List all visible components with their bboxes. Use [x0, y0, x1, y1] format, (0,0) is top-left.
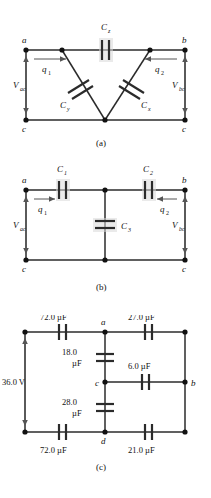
vbc-subscript: bc [179, 86, 185, 92]
cap-c1-label: C [57, 164, 64, 174]
node-label-c-right: c [182, 124, 186, 134]
source-arrow-head-down [22, 420, 28, 426]
cap-c2-subscript: 2 [150, 170, 153, 176]
node-c-topright-dot [182, 329, 187, 334]
node-label-b-c-left: c [22, 264, 26, 274]
caption-b: (b) [96, 282, 107, 292]
node-c-dot-c [102, 379, 107, 384]
node-d-dot-c [102, 429, 107, 434]
cap-value-top-right: 27.0 µF [128, 315, 155, 322]
vbc-label: V [172, 80, 179, 90]
node-label-b-c-right: c [182, 264, 186, 274]
node-a-dot-c [102, 329, 107, 334]
cap-value-18-line2: µF [72, 358, 82, 368]
vacb-arrow-head-up [23, 196, 29, 202]
q2b-label: q [160, 204, 165, 214]
cap-value-18-line1: 18.0 [62, 347, 77, 357]
cap-value-top-left: 72.0 µF [40, 315, 67, 322]
cap-value-28-line1: 28.0 [62, 397, 77, 407]
node-label-b: b [182, 35, 187, 45]
caption-c: (c) [96, 462, 106, 472]
cap-c3-label: C [121, 221, 128, 231]
caption-a: (a) [96, 138, 106, 148]
cap-cx-subscript: x [147, 106, 151, 112]
vbcb-arrow-head-up [182, 196, 188, 202]
node-label-c-left: c [22, 124, 26, 134]
node-b-dot [182, 47, 187, 52]
node-b-b-dot [182, 187, 187, 192]
node-c-left-dot [23, 117, 28, 122]
cap-cy-label: C [60, 100, 67, 110]
node-c-botleft-dot [22, 429, 27, 434]
node-b-a-dot [23, 187, 28, 192]
vac-arrow-head-up [23, 56, 29, 62]
cap-c1-subscript: 1 [64, 170, 67, 176]
vbcb-label: V [172, 220, 179, 230]
node-b-dot-c [182, 379, 187, 384]
node-a-dot [23, 47, 28, 52]
vbc-arrow-head-down [182, 108, 188, 114]
panel-c: 72.0 µF 27.0 µF 18.0 µF 28.0 µF 6.0 µF 7… [0, 315, 211, 498]
node-c-topleft-dot [22, 329, 27, 334]
vbcb-arrow-head-down [182, 248, 188, 254]
vacb-subscript: ac [20, 226, 26, 232]
q2b-arrow-head [157, 196, 163, 202]
cap-value-bottom-right: 21.0 µF [128, 445, 155, 455]
vacb-arrow-head-down [23, 248, 29, 254]
cap-cz-subscript: z [107, 28, 111, 34]
q1-label: q [42, 64, 47, 74]
node-c-right-dot [182, 117, 187, 122]
node-b-c-right-dot [182, 257, 187, 262]
q2-subscript: 2 [161, 70, 164, 76]
node-label-a: a [22, 35, 27, 45]
node-label-c-d: d [101, 436, 106, 446]
q1b-label: q [38, 204, 43, 214]
cap-cx-label: C [141, 100, 148, 110]
vac-arrow-head-down [23, 108, 29, 114]
node-a-bottom-junction [102, 117, 107, 122]
cap-value-6uf: 6.0 µF [128, 361, 151, 371]
q1b-subscript: 1 [44, 210, 47, 216]
source-arrow-head-up [22, 338, 28, 344]
cap-value-28-line2: µF [72, 408, 82, 418]
vacb-label: V [13, 220, 20, 230]
q1-subscript: 1 [48, 70, 51, 76]
circuit-figure: C z C y C x a b c c [0, 0, 211, 498]
cap-c3-subscript: 3 [127, 227, 131, 233]
node-b-bottom-junction [102, 257, 107, 262]
q2-label: q [155, 64, 160, 74]
node-label-b-b: b [182, 175, 187, 185]
vbcb-subscript: bc [179, 226, 185, 232]
node-label-c-c: c [95, 378, 99, 388]
node-label-c-b: b [191, 378, 196, 388]
panel-b: C 1 C 2 C 3 a b c c [0, 150, 211, 315]
cap-cy-subscript: y [66, 106, 70, 112]
q1b-arrow-head [49, 196, 55, 202]
vbc-arrow-head-up [182, 56, 188, 62]
cap-c2-label: C [143, 164, 150, 174]
cap-cz-label: C [101, 22, 108, 32]
vac-subscript: ac [20, 86, 26, 92]
cap-value-bottom-left: 72.0 µF [40, 445, 67, 455]
node-b-c-left-dot [23, 257, 28, 262]
source-voltage-label: 36.0 V [2, 377, 26, 387]
node-b-top-junction [102, 187, 107, 192]
node-label-c-a: a [101, 317, 106, 327]
panel-a: C z C y C x a b c c [0, 0, 211, 150]
q2b-subscript: 2 [166, 210, 169, 216]
node-a-junction-right [147, 47, 152, 52]
vac-label: V [13, 80, 20, 90]
node-label-b-a: a [22, 175, 27, 185]
q1-arrow-head [60, 56, 66, 62]
node-c-botright-dot [182, 429, 187, 434]
node-a-junction-left [59, 47, 64, 52]
